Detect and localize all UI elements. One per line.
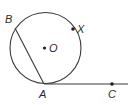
point-c [110,82,114,86]
geometry-figure: B O X A C [0,0,138,105]
label-o: O [49,42,58,54]
circle-diagram: B O X A C [0,0,138,105]
label-c: C [108,88,116,100]
point-x [71,27,75,31]
label-x: X [76,23,85,35]
chord-ba [15,28,44,84]
label-a: A [38,88,46,100]
point-o [43,46,46,49]
label-b: B [5,13,12,25]
